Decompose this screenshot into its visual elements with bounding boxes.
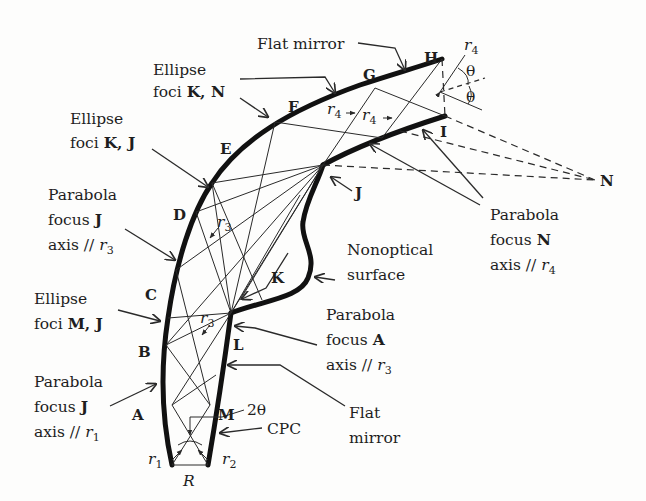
label-parabola-focus-n-r4: Parabola focus N axis // r4: [490, 206, 559, 277]
point-m: M: [218, 406, 235, 424]
point-e: E: [220, 140, 231, 158]
svg-text:Nonoptical: Nonoptical: [347, 241, 433, 259]
svg-text:focus J: focus J: [34, 397, 88, 416]
label-flat-mirror-top: Flat mirror: [257, 35, 345, 53]
svg-text:Ellipse: Ellipse: [153, 61, 206, 79]
svg-text:Parabola: Parabola: [326, 306, 395, 324]
exit-aperture-r: R: [182, 472, 195, 490]
point-j: J: [353, 184, 362, 202]
angle-theta-upper: θ: [466, 62, 475, 80]
svg-text:axis // r3: axis // r3: [326, 356, 392, 377]
label-flat-mirror-bottom: Flat mirror: [349, 404, 401, 447]
svg-text:mirror: mirror: [349, 429, 401, 447]
svg-text:focus A: focus A: [326, 330, 386, 349]
angle-theta-lower: θ: [466, 88, 475, 106]
angle-two-theta: 2θ: [247, 401, 266, 419]
callout-labels: Flat mirror Ellipse foci K, N Ellipse fo…: [34, 35, 559, 447]
svg-text:Parabola: Parabola: [490, 206, 559, 224]
point-l: L: [233, 336, 244, 354]
ray-r3-upper: r3: [217, 213, 231, 234]
label-parabola-focus-j-r1: Parabola focus J axis // r1: [34, 373, 103, 444]
inner-mirror: [208, 116, 445, 465]
label-cpc: CPC: [267, 420, 301, 438]
svg-text:Ellipse: Ellipse: [70, 110, 123, 128]
optical-diagram: A B C D E F G H I J K L M N R r1 r2 r3 r…: [0, 0, 646, 501]
svg-text:foci K, N: foci K, N: [153, 82, 225, 101]
svg-text:axis // r1: axis // r1: [34, 423, 100, 444]
ray-r4-right: r4: [362, 106, 376, 127]
svg-text:Flat: Flat: [349, 404, 381, 422]
label-ellipse-foci-k-j: Ellipse foci K, J: [70, 110, 135, 152]
point-b: B: [138, 343, 151, 361]
svg-text:foci M, J: foci M, J: [34, 314, 103, 333]
svg-text:axis // r3: axis // r3: [48, 236, 114, 257]
point-g: G: [363, 66, 376, 84]
outer-mirror: [163, 59, 442, 465]
point-f: F: [288, 98, 299, 116]
ray-r4-top: r4: [464, 36, 478, 57]
point-h: H: [424, 49, 438, 67]
label-ellipse-foci-m-j: Ellipse foci M, J: [34, 290, 103, 333]
point-n: N: [600, 172, 614, 190]
ray-r4-left: r4: [327, 100, 341, 121]
label-nonoptical-surface: Nonoptical surface: [347, 241, 433, 284]
ray-bundle: [166, 59, 445, 465]
label-ellipse-foci-k-n: Ellipse foci K, N: [153, 61, 225, 101]
svg-text:focus J: focus J: [48, 210, 102, 229]
svg-text:Parabola: Parabola: [34, 373, 103, 391]
label-parabola-focus-j-r3: Parabola focus J axis // r3: [48, 186, 117, 257]
svg-text:Ellipse: Ellipse: [34, 290, 87, 308]
point-a: A: [131, 406, 144, 424]
svg-text:surface: surface: [347, 266, 405, 284]
acceptance-angle-indicator: [440, 55, 485, 110]
ray-r2: r2: [222, 450, 236, 471]
point-c: C: [145, 286, 157, 304]
svg-text:foci K, J: foci K, J: [70, 133, 135, 152]
ray-r1: r1: [148, 450, 162, 471]
svg-text:axis // r4: axis // r4: [490, 256, 556, 277]
point-i: I: [440, 123, 447, 141]
svg-text:focus N: focus N: [490, 230, 551, 249]
svg-text:Parabola: Parabola: [48, 186, 117, 204]
point-d: D: [173, 206, 186, 224]
ray-r3-lower: r3: [200, 309, 214, 330]
label-parabola-focus-a-r3: Parabola focus A axis // r3: [326, 306, 395, 377]
point-k: K: [271, 269, 285, 287]
